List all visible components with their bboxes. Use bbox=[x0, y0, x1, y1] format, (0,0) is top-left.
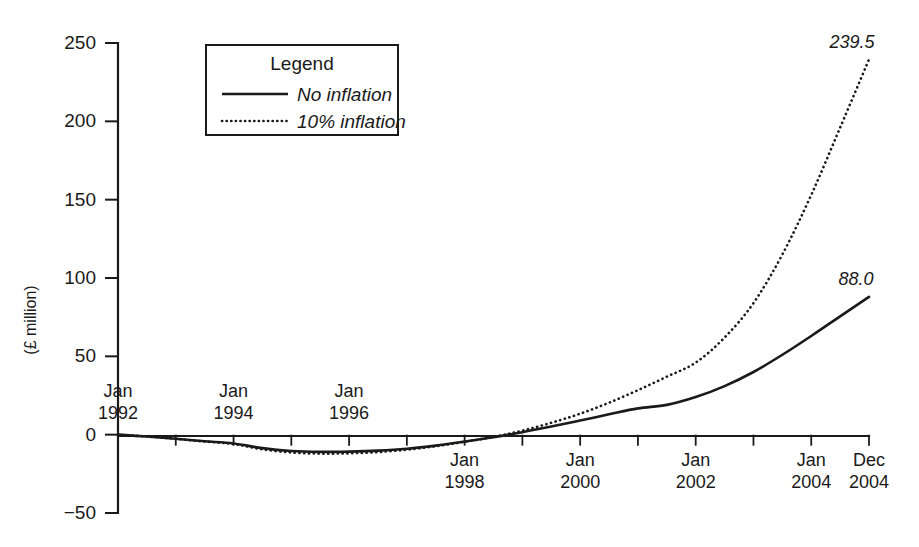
x-tick-label-month: Jan bbox=[219, 381, 248, 401]
x-tick-label-year: 2004 bbox=[849, 472, 889, 492]
y-axis-group: 250200150100500−50 (£ million) bbox=[22, 32, 118, 523]
x-tick-label-year: 1996 bbox=[329, 403, 369, 423]
y-axis-title: (£ million) bbox=[22, 285, 39, 354]
data-label-no-inflation: 88.0 bbox=[838, 269, 873, 289]
y-tick-label: 200 bbox=[64, 110, 96, 131]
x-tick-label-month: Jan bbox=[681, 450, 710, 470]
data-labels-group: 239.5 88.0 bbox=[828, 32, 875, 289]
x-tick-label-year: 1992 bbox=[98, 403, 138, 423]
x-tick-label-month: Jan bbox=[797, 450, 826, 470]
x-tick-label-month: Jan bbox=[566, 450, 595, 470]
data-label-10pct-inflation: 239.5 bbox=[828, 32, 875, 52]
y-axis-tick-labels: 250200150100500−50 bbox=[64, 32, 96, 523]
x-tick-label-month: Dec bbox=[853, 450, 885, 470]
legend-label-no-inflation: No inflation bbox=[297, 84, 392, 105]
y-axis-ticks bbox=[105, 43, 118, 513]
chart-container: 250200150100500−50 (£ million) Jan1992Ja… bbox=[0, 0, 919, 547]
y-tick-label: 100 bbox=[64, 267, 96, 288]
line-chart: 250200150100500−50 (£ million) Jan1992Ja… bbox=[0, 0, 919, 547]
y-tick-label: 250 bbox=[64, 32, 96, 53]
y-tick-label: 0 bbox=[85, 424, 96, 445]
y-tick-label: 50 bbox=[75, 345, 96, 366]
legend-label-10pct-inflation: 10% inflation bbox=[297, 111, 406, 132]
series-line-no-inflation bbox=[118, 297, 869, 452]
x-tick-label-month: Jan bbox=[335, 381, 364, 401]
x-tick-label-month: Jan bbox=[103, 381, 132, 401]
x-tick-label-year: 2002 bbox=[676, 472, 716, 492]
x-tick-label-year: 1994 bbox=[214, 403, 254, 423]
y-tick-label: −50 bbox=[64, 502, 96, 523]
legend-title: Legend bbox=[270, 53, 333, 74]
x-tick-label-year: 2004 bbox=[791, 472, 831, 492]
legend: Legend No inflation 10% inflation bbox=[206, 45, 406, 135]
x-tick-label-year: 1998 bbox=[445, 472, 485, 492]
y-tick-label: 150 bbox=[64, 189, 96, 210]
x-tick-label-year: 2000 bbox=[560, 472, 600, 492]
x-tick-label-month: Jan bbox=[450, 450, 479, 470]
